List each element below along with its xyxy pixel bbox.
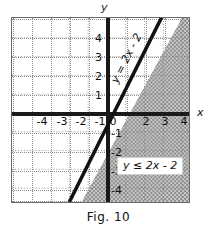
ytick-label: -2 [111, 147, 122, 158]
xtick-label: -4 [37, 116, 48, 127]
xtick-label: -3 [57, 116, 68, 127]
xtick-label: 2 [143, 116, 150, 127]
xtick-label-origin: 0 [110, 116, 117, 127]
xtick-label: 3 [162, 116, 169, 127]
xtick-label: -1 [95, 116, 106, 127]
figure-container: -4 -3 -2 -1 0 2 3 4 4 3 2 1 -1 -2 -3 -4 … [0, 0, 217, 232]
plot-area: -4 -3 -2 -1 0 2 3 4 4 3 2 1 -1 -2 -3 -4 [11, 17, 190, 203]
xtick-label: 4 [181, 116, 188, 127]
ytick-label: 2 [95, 71, 102, 82]
figure-caption: Fig. 10 [0, 210, 217, 224]
ytick-label: 3 [95, 52, 102, 63]
x-axis-label: x [197, 107, 204, 118]
ytick-label: -1 [111, 128, 122, 139]
ytick-label: 4 [95, 33, 102, 44]
ytick-label: 1 [95, 90, 102, 101]
y-axis-label: y [101, 2, 108, 13]
inequality-label: y ≤ 2x - 2 [117, 157, 183, 175]
y-axis [106, 18, 110, 202]
ytick-label: -4 [111, 185, 122, 196]
xtick-label: -2 [76, 116, 87, 127]
